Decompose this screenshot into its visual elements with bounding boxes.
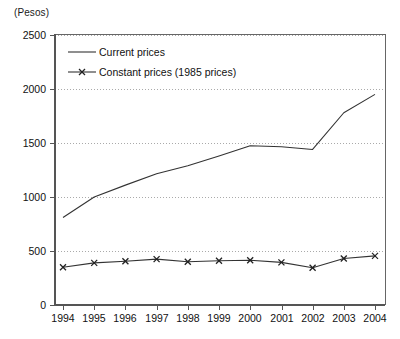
x-tick-label-1996: 1996 — [113, 312, 137, 324]
x-tick-label-1997: 1997 — [145, 312, 169, 324]
y-tick-label-2000: 2000 — [23, 83, 47, 95]
y-axis-ticks — [50, 35, 55, 305]
y-tick-label-1000: 1000 — [23, 191, 47, 203]
x-tick-label-2002: 2002 — [301, 312, 325, 324]
x-tick-label-2004: 2004 — [363, 312, 387, 324]
x-tick-label-1994: 1994 — [51, 312, 75, 324]
y-tick-label-1500: 1500 — [23, 137, 47, 149]
x-tick-label-1999: 1999 — [207, 312, 231, 324]
x-axis-tick-labels: 1994 1995 1996 1997 1998 1999 2000 2001 … — [51, 312, 387, 324]
legend-label-constant-prices: Constant prices (1985 prices) — [99, 66, 236, 78]
x-tick-label-2001: 2001 — [270, 312, 294, 324]
x-tick-label-1995: 1995 — [82, 312, 106, 324]
legend-label-current-prices: Current prices — [99, 46, 165, 58]
chart-container: (Pesos) 2500 — [0, 0, 400, 339]
x-tick-label-2000: 2000 — [238, 312, 262, 324]
x-tick-label-2003: 2003 — [332, 312, 356, 324]
x-axis-ticks — [63, 305, 375, 310]
y-axis-tick-labels: 2500 2000 1500 1000 500 0 — [23, 29, 47, 311]
y-tick-label-500: 500 — [28, 245, 46, 257]
x-tick-label-1998: 1998 — [176, 312, 200, 324]
y-tick-label-2500: 2500 — [23, 29, 47, 41]
line-chart: 2500 2000 1500 1000 500 0 1994 1995 1996 — [0, 0, 400, 339]
y-tick-label-0: 0 — [40, 299, 46, 311]
